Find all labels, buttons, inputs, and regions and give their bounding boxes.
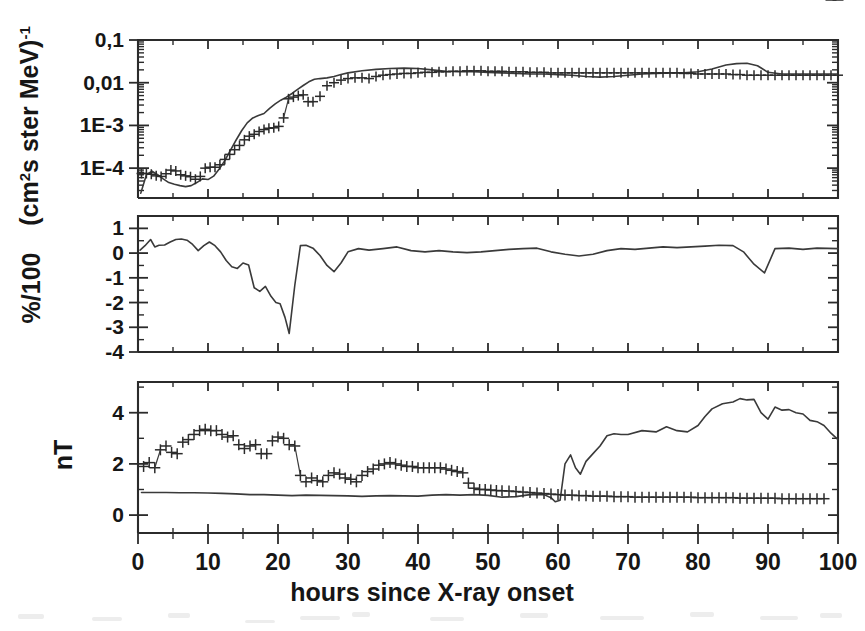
scan-smudge <box>352 612 370 617</box>
panel-bottom-y-axis-title: nT <box>49 440 77 471</box>
x-tick-label: 0 <box>132 549 145 575</box>
scan-smudge <box>168 613 190 618</box>
x-tick-label: 80 <box>685 549 711 575</box>
panel-bottom-y-tick-labels: 420 <box>112 401 124 526</box>
panel-middle-y-tick-label: 1 <box>112 216 124 239</box>
panel-bottom-y-tick-label: 0 <box>112 503 124 526</box>
x-tick-label: 60 <box>545 549 571 575</box>
ylabel-superscript-2: 2 <box>16 173 33 181</box>
panel-middle-y-axis-title: %/100 <box>17 253 45 324</box>
ylabel-mid: s ster MeV) <box>15 40 43 173</box>
panel-bottom-y-tick-label: 2 <box>112 452 124 475</box>
panel-top-y-tick-label: 1E-4 <box>80 156 125 179</box>
x-tick-label: 20 <box>265 549 291 575</box>
x-axis-title: hours since X-ray onset <box>290 578 574 606</box>
x-tick-label: 40 <box>405 549 431 575</box>
panel-middle-y-tick-label: -4 <box>105 340 124 363</box>
x-tick-label: 30 <box>335 549 361 575</box>
scan-smudge <box>92 617 122 621</box>
scan-smudge <box>430 617 464 621</box>
ylabel-open: (cm <box>15 181 43 225</box>
x-tick-label: 10 <box>195 549 221 575</box>
scan-smudge <box>760 616 798 620</box>
ylabel-superscript-minus1: -1 <box>16 26 33 39</box>
chart-background <box>0 0 865 631</box>
panel-top-y-tick-label: 0,1 <box>95 28 125 51</box>
panel-top-y-axis-title-group: (cm2s ster MeV)-1 <box>15 26 43 226</box>
scan-smudge <box>245 620 275 623</box>
scan-smudge <box>520 613 548 618</box>
x-tick-label: 50 <box>475 549 501 575</box>
x-tick-label: 100 <box>819 549 857 575</box>
scan-smudge <box>18 614 44 619</box>
scan-smudge <box>600 616 644 620</box>
x-tick-label: 90 <box>755 549 781 575</box>
scan-smudge <box>690 612 714 617</box>
scan-smudge <box>300 616 340 620</box>
scan-smudge <box>820 613 842 618</box>
panel-bottom-y-axis-title-group: nT <box>49 440 77 471</box>
panel-top-y-tick-label: 1E-3 <box>80 113 124 136</box>
figure-root: 0,10,011E-31E-4 10-1-2-3-4 420 010203040… <box>0 0 865 631</box>
panel-middle-y-tick-label: -2 <box>105 291 124 314</box>
multi-panel-chart: 0,10,011E-31E-4 10-1-2-3-4 420 010203040… <box>0 0 865 631</box>
panel-middle-y-tick-label: -3 <box>105 315 124 338</box>
panel-top-y-axis-title: (cm2s ster MeV)-1 <box>15 26 43 226</box>
panel-top-y-tick-label: 0,01 <box>83 71 124 94</box>
panel-bottom-y-tick-label: 4 <box>112 401 124 424</box>
panel-middle-y-tick-label: -1 <box>105 266 124 289</box>
x-tick-label: 70 <box>615 549 641 575</box>
panel-middle-y-axis-title-group: %/100 <box>17 253 45 324</box>
panel-middle-y-tick-label: 0 <box>112 241 124 264</box>
